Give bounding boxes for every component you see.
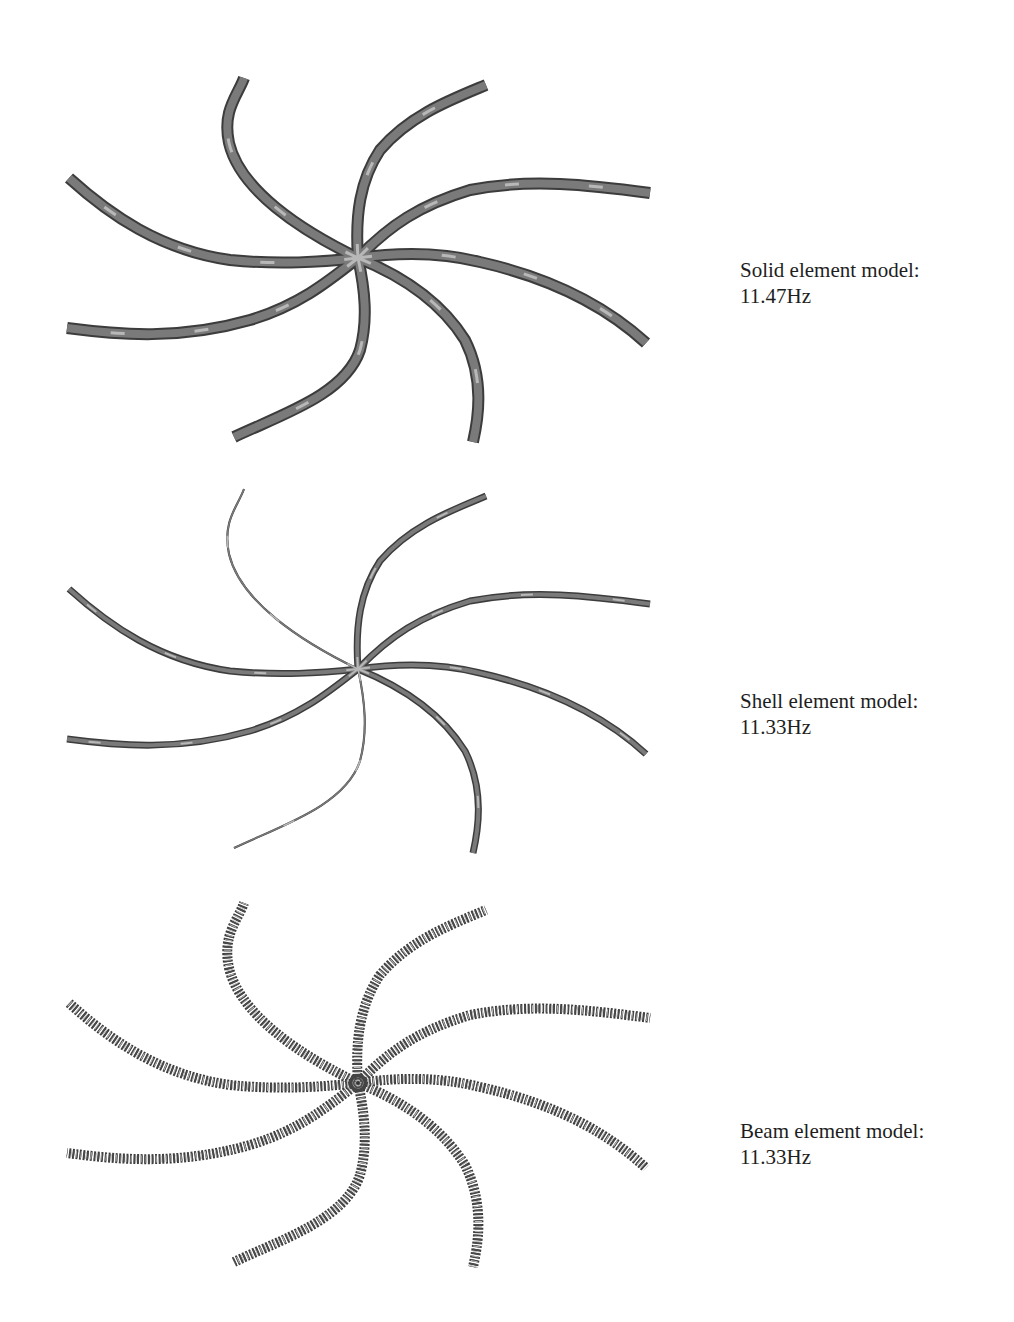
beam-model-label: Beam element model: <box>740 1118 924 1144</box>
spiral-arm-7 <box>67 1083 358 1159</box>
spiral-arm-7 <box>67 669 358 745</box>
spiral-arm-8 <box>69 178 358 263</box>
spiral-arm-8 <box>69 1003 358 1088</box>
spiral-arm-4 <box>358 1079 646 1168</box>
spiral-arm-6 <box>234 1083 365 1262</box>
arm-highlights <box>67 903 650 1267</box>
spiral-arm-8 <box>69 178 358 263</box>
spiral-arm-2 <box>357 910 486 1083</box>
spiral-arm-3 <box>358 595 650 669</box>
spiral-arm-8 <box>69 178 358 263</box>
solid-model-frequency: 11.47Hz <box>740 283 920 309</box>
spiral-arm-1 <box>227 903 358 1083</box>
spiral-arm-1 <box>227 78 358 258</box>
spiral-arm-7 <box>67 669 358 745</box>
shell-element-model-figure <box>0 411 720 823</box>
spiral-arm-2 <box>357 910 486 1083</box>
beam-element-model-figure <box>0 825 720 1237</box>
spiral-arm-7 <box>67 1083 358 1159</box>
solid-model-caption: Solid element model: 11.47Hz <box>740 257 920 309</box>
spiral-arm-7 <box>67 669 358 745</box>
beam-model-caption: Beam element model: 11.33Hz <box>740 1118 924 1170</box>
spiral-arm-3 <box>358 184 650 258</box>
spiral-arm-5 <box>358 1083 478 1267</box>
solid-spiral-arms-diagram <box>0 0 720 412</box>
spiral-arm-6 <box>234 669 365 848</box>
shell-spiral-arms-diagram <box>0 411 720 823</box>
shell-model-frequency: 11.33Hz <box>740 714 918 740</box>
beam-model-frequency: 11.33Hz <box>740 1144 924 1170</box>
solid-element-model-figure <box>0 0 720 412</box>
spiral-arm-1 <box>227 903 358 1083</box>
spiral-arm-2 <box>357 910 486 1083</box>
spiral-arm-6 <box>234 669 365 848</box>
spiral-arm-1 <box>227 903 358 1083</box>
spiral-arm-2 <box>357 496 486 669</box>
spiral-arm-8 <box>69 589 358 674</box>
spiral-arm-8 <box>69 589 358 674</box>
spiral-arm-1 <box>227 78 358 258</box>
shell-model-label: Shell element model: <box>740 688 918 714</box>
beam-hub-center <box>356 1081 360 1085</box>
spiral-arm-8 <box>69 1003 358 1088</box>
arm-highlights <box>67 78 650 442</box>
spiral-arm-3 <box>358 1009 650 1083</box>
solid-model-label: Solid element model: <box>740 257 920 283</box>
spiral-arm-6 <box>234 1083 365 1262</box>
spiral-arm-3 <box>358 1009 650 1083</box>
spiral-arm-1 <box>227 489 358 669</box>
spiral-arm-1 <box>227 489 358 669</box>
shell-model-caption: Shell element model: 11.33Hz <box>740 688 918 740</box>
spiral-arm-3 <box>358 1009 650 1083</box>
spiral-arm-1 <box>227 489 358 669</box>
spiral-arm-4 <box>358 254 646 343</box>
spiral-arm-2 <box>357 496 486 669</box>
spiral-arm-7 <box>67 1083 358 1159</box>
spiral-arm-7 <box>67 258 358 334</box>
arm-highlights <box>67 489 650 853</box>
spiral-arm-2 <box>357 496 486 669</box>
spiral-arm-8 <box>69 1003 358 1088</box>
spiral-arm-2 <box>357 85 486 258</box>
spiral-arm-6 <box>234 669 365 848</box>
spiral-arm-8 <box>69 589 358 674</box>
spiral-arm-4 <box>358 665 646 754</box>
beam-spiral-arms-diagram <box>0 825 720 1237</box>
spiral-arm-1 <box>227 78 358 258</box>
spiral-arm-6 <box>234 1083 365 1262</box>
